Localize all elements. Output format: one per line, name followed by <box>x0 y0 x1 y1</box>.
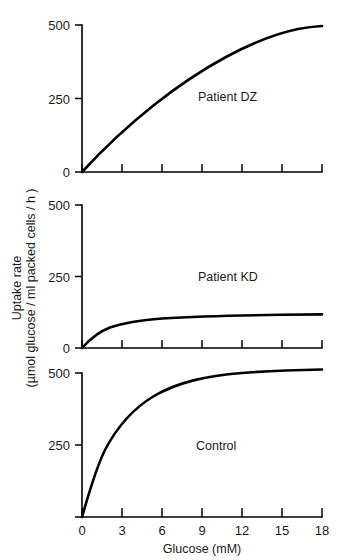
xtick-3: 3 <box>118 523 125 538</box>
panel-control-y-tick-labels: 500 250 <box>48 366 70 453</box>
panel-control-ytick-250: 250 <box>48 438 70 453</box>
panel-patient-dz: 500 250 0 Patient DZ <box>48 18 322 180</box>
x-axis-tick-labels: 0 3 6 9 12 15 18 <box>78 523 329 538</box>
panel-dz-x-ticks <box>82 164 322 172</box>
y-axis-title-group: Uptake rate (µmol glucose / ml packed ce… <box>10 189 38 388</box>
panel-kd-ytick-0: 0 <box>63 341 70 356</box>
panel-dz-ytick-250: 250 <box>48 92 70 107</box>
xtick-0: 0 <box>78 523 85 538</box>
panel-kd-y-tick-labels: 500 250 0 <box>48 198 70 356</box>
kinetics-figure: Uptake rate (µmol glucose / ml packed ce… <box>0 0 342 560</box>
panel-control-x-ticks <box>82 508 322 517</box>
panel-dz-y-tick-labels: 500 250 0 <box>48 18 70 180</box>
xtick-18: 18 <box>315 523 329 538</box>
panel-kd-x-ticks <box>82 340 322 348</box>
panel-label-patient-kd: Patient KD <box>198 270 258 284</box>
x-axis-title: Glucose (mM) <box>163 542 241 556</box>
panel-kd-ytick-500: 500 <box>48 198 70 213</box>
panel-kd-y-ticks <box>75 205 82 348</box>
panel-dz-ytick-500: 500 <box>48 18 70 33</box>
panel-label-control: Control <box>196 439 236 453</box>
figure-container: Uptake rate (µmol glucose / ml packed ce… <box>0 0 342 560</box>
xtick-9: 9 <box>198 523 205 538</box>
panel-control-y-ticks <box>75 373 82 517</box>
xtick-15: 15 <box>275 523 289 538</box>
panel-patient-kd: 500 250 0 Patient KD <box>48 198 322 356</box>
panel-control-ytick-500: 500 <box>48 366 70 381</box>
y-axis-title-units: (µmol glucose / ml packed cells / h ) <box>24 189 38 388</box>
xtick-12: 12 <box>235 523 249 538</box>
xtick-6: 6 <box>158 523 165 538</box>
y-axis-title-main: Uptake rate <box>10 256 24 321</box>
panel-dz-y-ticks <box>75 25 82 172</box>
panel-label-patient-dz: Patient DZ <box>198 90 257 104</box>
panel-dz-ytick-0: 0 <box>63 165 70 180</box>
panel-kd-ytick-250: 250 <box>48 270 70 285</box>
panel-control: 500 250 Control 0 3 6 9 12 15 <box>48 366 329 556</box>
